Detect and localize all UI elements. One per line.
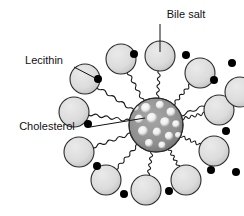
- cholesterol-dot: [182, 51, 190, 59]
- bile-salt-head: [199, 136, 229, 166]
- core-speckle: [166, 107, 175, 116]
- lecithin-tail: [97, 87, 134, 111]
- lecithin-tail: [88, 114, 130, 121]
- cholesterol-label: Cholesterol: [19, 120, 75, 132]
- bile-salt-head: [171, 165, 201, 195]
- core-speckle: [153, 128, 162, 137]
- lecithin-tail: [181, 112, 205, 120]
- lecithin-tail: [92, 133, 131, 148]
- micelle-illustration: Bile salt Lecithin Cholesterol: [0, 0, 244, 216]
- core-speckle: [165, 132, 173, 140]
- core-speckle: [138, 126, 148, 136]
- bile-salt-head: [64, 137, 94, 167]
- core-speckle: [147, 113, 157, 123]
- micelle-diagram: Bile salt Lecithin Cholesterol: [0, 0, 244, 216]
- cholesterol-dot: [165, 187, 173, 195]
- cholesterol-dot: [94, 75, 102, 83]
- cholesterol-dot: [207, 166, 215, 174]
- core-speckle: [160, 117, 170, 127]
- bile-salt-head: [106, 44, 136, 74]
- cholesterol-dot: [232, 168, 240, 176]
- lecithin-tail: [173, 84, 191, 106]
- lecithin-label: Lecithin: [25, 54, 63, 66]
- core-speckle: [141, 103, 151, 113]
- lecithin-tail: [180, 136, 201, 146]
- cholesterol-dot: [120, 190, 128, 198]
- core-speckle: [158, 141, 165, 148]
- lecithin-tail: [148, 151, 153, 176]
- bile-salt-label: Bile salt: [167, 8, 206, 20]
- bile-salt-head: [131, 175, 161, 205]
- cholesterol-dot: [228, 59, 236, 67]
- lecithin-tail: [115, 144, 138, 169]
- lecithin-tail: [157, 70, 161, 99]
- cholesterol-dot: [93, 162, 101, 170]
- core-speckle: [172, 120, 180, 128]
- core-speckle: [145, 139, 153, 147]
- cholesterol-dot: [210, 76, 218, 84]
- lecithin-tail: [127, 71, 144, 102]
- bile-salt-head: [185, 58, 215, 88]
- cholesterol-core-group: [129, 98, 183, 152]
- core-speckle: [156, 101, 164, 109]
- cholesterol-dot: [222, 127, 230, 135]
- lecithin-tail: [168, 148, 180, 168]
- cholesterol-dot: [130, 50, 138, 58]
